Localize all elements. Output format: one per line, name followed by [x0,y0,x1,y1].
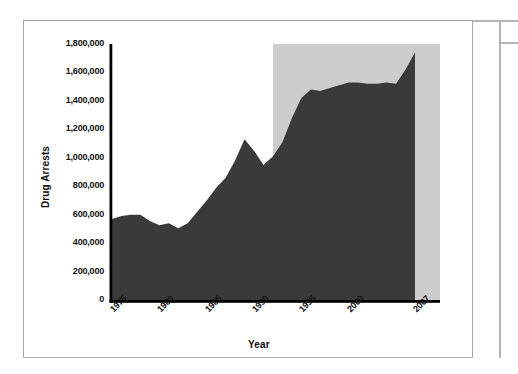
y-axis-title: Drug Arrests [40,146,51,208]
y-axis-tick-label: 1,200,000 [34,123,104,133]
y-axis-tick-label: 400,000 [34,237,104,247]
x-axis-title: Year [0,339,518,350]
y-axis-tick-label: 200,000 [34,266,104,276]
y-axis-line [110,44,113,303]
y-axis-tick-label: 1,600,000 [34,66,104,76]
y-axis-tick-label: 1,800,000 [34,38,104,48]
y-axis-tick-label: 0 [34,294,104,304]
document-margin-rule-vertical [499,20,501,358]
document-margin-rule-top [473,20,518,22]
document-margin-rule-middle [499,42,518,44]
y-axis-tick-label: 1,400,000 [34,95,104,105]
y-axis-tick-label: 600,000 [34,209,104,219]
drug-arrests-area-series [112,53,415,300]
